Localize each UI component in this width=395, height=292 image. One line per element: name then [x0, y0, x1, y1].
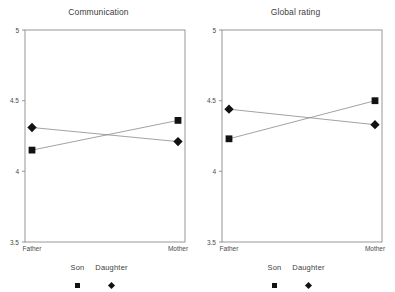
diamond-marker-icon: [305, 282, 312, 289]
ytick-label-45: 4.5: [10, 97, 19, 104]
data-point-son-mother: [372, 97, 379, 104]
series-line-son: [32, 120, 178, 150]
plot-svg-global-rating: 5 4.5 4 3.5 Father Mother: [197, 0, 394, 260]
plot-svg-communication: 5 4.5 4 3.5 Father Mother: [0, 0, 197, 260]
legend-label-daughter: Daughter: [91, 263, 133, 272]
series-line-daughter: [32, 128, 178, 142]
plot-area-communication: 5 4.5 4 3.5 Father Mother: [0, 0, 197, 260]
data-point-son-father: [226, 135, 233, 142]
legend-labels: SonDaughter: [65, 263, 133, 272]
ytick-label-45: 4.5: [207, 97, 216, 104]
legend-label-son: Son: [65, 263, 91, 272]
legend-global-rating: SonDaughter: [197, 260, 394, 292]
square-marker-icon: [272, 283, 277, 288]
chart-panel-global-rating: Global rating 5 4.5 4 3.5 Father Mother: [197, 0, 394, 260]
xtick-label-mother: Mother: [168, 245, 189, 252]
ytick-label-5: 5: [15, 27, 19, 34]
legend-label-daughter: Daughter: [288, 263, 330, 272]
chart-panel-communication: Communication 5 4.5 4 3.5 Father Mother: [0, 0, 197, 260]
plot-frame: [25, 30, 185, 242]
chart-panels: Communication 5 4.5 4 3.5 Father Mother: [0, 0, 395, 260]
legend-communication: SonDaughter: [0, 260, 197, 292]
xtick-label-father: Father: [23, 245, 43, 252]
data-point-daughter-mother: [370, 120, 379, 129]
legend-labels: SonDaughter: [262, 263, 330, 272]
legend-label-son: Son: [262, 263, 288, 272]
diamond-marker-icon: [108, 282, 115, 289]
legend-markers: [65, 274, 133, 284]
plot-frame: [222, 30, 382, 242]
legend-marker-daughter-wrap: [91, 274, 133, 292]
chart-legends: SonDaughter SonDaughter: [0, 260, 395, 292]
square-marker-icon: [75, 283, 80, 288]
ytick-label-4: 4: [15, 168, 19, 175]
xtick-label-father: Father: [220, 245, 240, 252]
ytick-label-35: 3.5: [207, 239, 216, 246]
legend-marker-daughter-wrap: [288, 274, 330, 292]
data-point-son-father: [29, 147, 36, 154]
data-point-daughter-father: [27, 123, 36, 132]
ytick-label-35: 3.5: [10, 239, 19, 246]
plot-area-global-rating: 5 4.5 4 3.5 Father Mother: [197, 0, 394, 260]
series-line-daughter: [229, 109, 375, 125]
series-line-son: [229, 101, 375, 139]
data-point-daughter-mother: [173, 137, 182, 146]
ytick-label-5: 5: [212, 27, 216, 34]
data-point-son-mother: [175, 117, 182, 124]
data-point-daughter-father: [224, 105, 233, 114]
xtick-label-mother: Mother: [365, 245, 386, 252]
legend-markers: [262, 274, 330, 284]
legend-marker-son-wrap: [65, 274, 91, 292]
legend-marker-son-wrap: [262, 274, 288, 292]
ytick-label-4: 4: [212, 168, 216, 175]
